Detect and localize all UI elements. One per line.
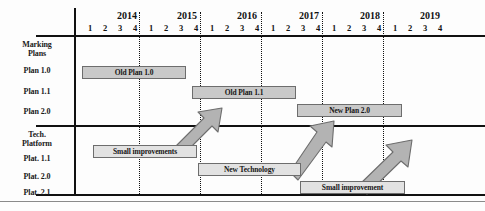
quarter-label-2015-q2: 2 (160, 23, 172, 33)
row-label-plan-1-1: Plan 1.1 (0, 87, 74, 96)
quarter-label-2014-q1: 1 (84, 23, 96, 33)
group-label-tech-platform-line1: Tech. (0, 130, 74, 139)
quarter-label-2019-q2: 2 (404, 23, 416, 33)
quarter-label-2018-q2: 2 (343, 23, 355, 33)
bar-old-plan-1-1[interactable]: Old Plan 1.1 (192, 86, 296, 99)
quarter-label-2017-q3: 3 (297, 23, 309, 33)
bottom-divider (0, 201, 485, 202)
quarter-label-2017-q1: 1 (267, 23, 279, 33)
quarter-label-2015-q3: 3 (175, 23, 187, 33)
year-label-2016: 2016 (217, 10, 277, 21)
row-label-plan-1-0: Plan 1.0 (0, 66, 74, 75)
quarter-label-2018-q3: 3 (358, 23, 370, 33)
quarter-label-2019-q3: 3 (419, 23, 431, 33)
row-label-plat-1-1: Plat. 1.1 (0, 154, 74, 163)
year-label-2018: 2018 (340, 10, 400, 21)
quarter-label-2017-q2: 2 (282, 23, 294, 33)
quarter-label-2014-q3: 3 (114, 23, 126, 33)
bar-old-plan-1-0[interactable]: Old Plan 1.0 (82, 66, 186, 79)
bar-small-improvement[interactable]: Small improvement (300, 181, 405, 194)
year-label-2019: 2019 (400, 10, 460, 21)
year-label-2015: 2015 (157, 10, 217, 21)
bar-new-plan-2-0[interactable]: New Plan 2.0 (297, 104, 402, 117)
row-label-plat-2-0: Plat. 2.0 (0, 172, 74, 181)
year-label-2014: 2014 (97, 10, 157, 21)
group-label-tech-platform-line2: Platform (0, 139, 74, 148)
row-label-plan-2-0: Plan 2.0 (0, 107, 74, 116)
quarter-label-2015-q1: 1 (145, 23, 157, 33)
group-label-marking-plans-line2: Plans (0, 49, 74, 58)
vertical-axis-top (74, 8, 76, 35)
row-label-plat-2-1: Plat. 2.1 (0, 188, 74, 197)
quarter-label-2014-q2: 2 (99, 23, 111, 33)
quarter-label-2019-q4: 4 (434, 23, 446, 33)
vertical-axis-marking (74, 37, 76, 125)
quarter-label-2016-q2: 2 (221, 23, 233, 33)
quarter-label-2019-q1: 1 (389, 23, 401, 33)
year-separator-2015 (139, 12, 140, 194)
quarter-label-2018-q1: 1 (328, 23, 340, 33)
year-label-2017: 2017 (279, 10, 339, 21)
group-label-marking-plans-line1: Marking (0, 40, 74, 49)
quarter-label-2016-q1: 1 (206, 23, 218, 33)
vertical-axis-tech (74, 127, 76, 195)
gantt-timeline-diagram: 2014 2015 2016 2017 2018 2019 1 2 3 4 1 … (0, 0, 485, 211)
bar-small-improvements[interactable]: Small improvements (93, 145, 197, 158)
quarter-label-2016-q3: 3 (236, 23, 248, 33)
bar-new-technology[interactable]: New Technology (198, 163, 301, 176)
